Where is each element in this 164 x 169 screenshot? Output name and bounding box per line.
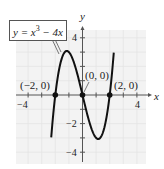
x-tick-label-neg4: −4 [17,100,28,110]
y-axis-label: y [80,11,85,22]
x-axis-label: x [154,91,159,102]
equation-lhs: y = x [13,26,36,38]
intercept-point [53,92,59,98]
point-label-neg2: (−2, 0) [20,80,50,91]
point-label-2: (2, 0) [114,80,138,91]
intercept-point [107,92,113,98]
y-tick-label-4: 4 [72,33,77,43]
x-axis-arrow [148,93,152,97]
equation-rhs: − 4x [40,26,63,38]
y-tick-label-neg4: −4 [66,148,77,158]
y-axis-arrow [81,26,85,30]
point-label-origin: (0, 0) [85,70,109,81]
y-tick-label-neg2: −2 [66,119,77,129]
intercept-point [80,92,86,98]
equation-label: y = x3 − 4x [9,20,67,41]
x-tick-label-4: 4 [135,100,140,110]
